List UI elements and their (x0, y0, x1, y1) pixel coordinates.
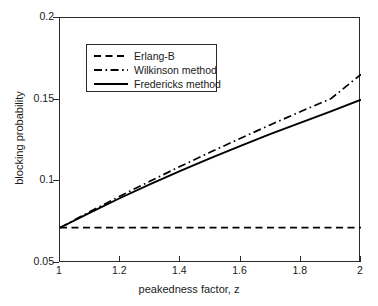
x-tick-label: 2 (340, 265, 378, 276)
x-tick-label: 1.4 (159, 265, 199, 276)
legend-item-label: Wilkinson method (134, 64, 217, 76)
x-tick-mark (119, 256, 120, 262)
x-tick-mark (360, 256, 361, 262)
x-tick-mark (240, 256, 241, 262)
figure: 0.050.10.150.2 11.21.41.61.82 peakedness… (0, 0, 378, 306)
x-tick-label: 1.2 (99, 265, 139, 276)
legend: Erlang-BWilkinson methodFredericks metho… (86, 44, 217, 92)
x-tick-label: 1.8 (280, 265, 320, 276)
legend-item: Fredericks method (87, 77, 216, 90)
x-tick-mark (59, 256, 60, 262)
series-line-fredericks-method (60, 100, 361, 228)
y-tick-label: 0.2 (8, 11, 54, 22)
x-tick-mark (179, 256, 180, 262)
legend-item-label: Fredericks method (134, 78, 221, 90)
y-axis-label: blocking probability (13, 53, 25, 223)
legend-item: Wilkinson method (87, 63, 216, 76)
legend-line-sample (94, 64, 128, 76)
legend-line-sample (94, 50, 128, 62)
legend-item: Erlang-B (87, 49, 216, 62)
legend-item-label: Erlang-B (134, 50, 175, 62)
legend-line-sample (94, 78, 128, 90)
x-tick-label: 1.6 (220, 265, 260, 276)
x-tick-mark (300, 256, 301, 262)
x-axis-label: peakedness factor, z (0, 283, 378, 295)
x-tick-label: 1 (39, 265, 79, 276)
